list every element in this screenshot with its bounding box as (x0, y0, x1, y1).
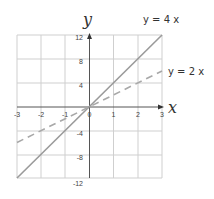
x-tick: 3 (160, 111, 164, 118)
x-tick: -1 (62, 111, 68, 118)
x-tick: 2 (136, 111, 140, 118)
y-tick: 4 (79, 82, 83, 89)
x-axis-arrow-icon (158, 105, 164, 110)
x-tick: 0 (88, 111, 92, 118)
x-tick: 1 (112, 111, 116, 118)
y-axis-arrow-icon (87, 33, 92, 39)
y-tick: -12 (73, 180, 83, 187)
y-tick: 8 (79, 58, 83, 65)
linear-functions-chart: -3 -2 -1 0 1 2 3 12 8 4 -4 -8 -12 y x y … (0, 0, 214, 199)
equation-label-y-2x: y = 2 x (168, 66, 204, 77)
y-axis-label: y (82, 10, 93, 29)
y-tick: -4 (77, 130, 83, 137)
x-tick: -3 (14, 111, 20, 118)
y-tick: 12 (75, 34, 83, 41)
y-tick: -8 (77, 154, 83, 161)
equation-label-y-4x: y = 4 x (143, 14, 179, 25)
x-tick-labels: -3 -2 -1 0 1 2 3 (14, 111, 164, 118)
x-tick: -2 (38, 111, 44, 118)
x-axis-label: x (168, 98, 177, 117)
